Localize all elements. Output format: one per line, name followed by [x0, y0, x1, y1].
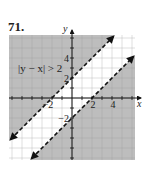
x-tick-label: −2: [43, 99, 54, 110]
inequality-annotation: |y − x| > 2: [18, 62, 62, 74]
y-tick-label: 4: [64, 53, 69, 64]
inequality-graph: −224−224xy|y − x| > 2: [0, 0, 148, 169]
x-axis-label: x: [136, 98, 142, 109]
x-tick-label: 4: [111, 99, 116, 110]
y-tick-label: −2: [58, 113, 69, 124]
y-axis-label: y: [62, 23, 68, 34]
x-tick-label: 2: [91, 99, 96, 110]
y-tick-label: 2: [64, 73, 69, 84]
